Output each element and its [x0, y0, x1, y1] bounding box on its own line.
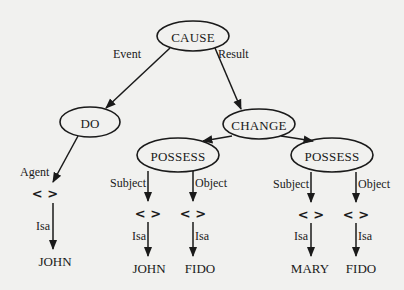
conceptual-dependency-diagram: CAUSE Event Result DO Agent < > Isa JOHN…	[0, 0, 404, 290]
edge-pr-object: Object	[356, 172, 391, 202]
leaf-john-agent: JOHN	[38, 254, 72, 269]
pr-subject-label: Subject	[273, 177, 310, 191]
do-label: DO	[80, 116, 99, 131]
edge-result: Result	[215, 47, 249, 109]
edge-event: Event	[106, 47, 170, 108]
agent-arrow	[53, 136, 78, 182]
leaf-fido-object-left: FIDO	[185, 261, 215, 276]
edge-pl-object: Object	[193, 171, 228, 201]
edge-pr-object-isa: Isa	[356, 223, 373, 256]
pl-subject-isa-label: Isa	[132, 229, 147, 243]
edge-pl-subject-isa: Isa	[132, 222, 148, 256]
pl-subject-label: Subject	[110, 176, 147, 190]
agent-label: Agent	[20, 165, 50, 179]
cause-label: CAUSE	[171, 30, 215, 45]
edge-agent: Agent	[20, 136, 78, 182]
pl-object-placeholder: < >	[180, 206, 206, 221]
edge-agent-isa: Isa	[36, 203, 53, 249]
pr-subject-isa-label: Isa	[294, 229, 309, 243]
change-label: CHANGE	[231, 118, 286, 133]
change-to-possess-left	[203, 136, 232, 141]
pl-subject-placeholder: < >	[135, 206, 161, 221]
change-to-possess-right	[281, 136, 313, 141]
agent-placeholder: < >	[32, 186, 58, 201]
pr-object-placeholder: < >	[343, 207, 369, 222]
pr-object-isa-label: Isa	[358, 229, 373, 243]
event-label: Event	[113, 47, 142, 61]
pr-subject-placeholder: < >	[298, 207, 324, 222]
edge-pr-subject-isa: Isa	[294, 223, 311, 256]
possess-left-label: POSSESS	[151, 149, 206, 164]
leaf-mary: MARY	[291, 261, 330, 276]
result-label: Result	[218, 47, 249, 61]
edge-pl-subject: Subject	[110, 171, 148, 201]
edge-pl-object-isa: Isa	[193, 222, 210, 256]
possess-right-label: POSSESS	[305, 149, 360, 164]
pr-object-label: Object	[358, 177, 391, 191]
leaf-fido-object-right: FIDO	[346, 261, 376, 276]
pl-object-label: Object	[195, 176, 228, 190]
pl-object-isa-label: Isa	[195, 229, 210, 243]
agent-isa-label: Isa	[36, 219, 51, 233]
leaf-john-subject: JOHN	[132, 261, 166, 276]
node-possess-right: POSSESS	[291, 138, 373, 172]
node-change: CHANGE	[223, 109, 295, 139]
node-possess-left: POSSESS	[137, 138, 219, 172]
edge-pr-subject: Subject	[273, 172, 311, 202]
node-do: DO	[60, 107, 120, 137]
